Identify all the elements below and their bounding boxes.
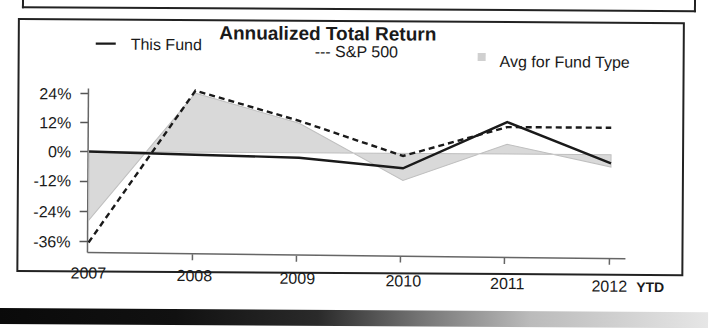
x-tick-label: 2012: [591, 278, 627, 295]
y-axis: 24% 12% 0% -12% -24% -36%: [33, 85, 71, 250]
x-tick-label: 2009: [279, 270, 315, 287]
annualized-return-chart: Annualized Total Return This Fund --- S&…: [0, 0, 710, 328]
legend-area-swatch-icon: [478, 53, 486, 61]
x-tick-label: 2010: [385, 272, 421, 289]
scanned-page: Annualized Total Return This Fund --- S&…: [0, 0, 710, 328]
x-axis-labels: 2007 2008 2009 2010 2011 2012: [70, 264, 627, 294]
legend-this-fund: This Fund: [131, 36, 202, 53]
plot-area: [89, 90, 612, 246]
chart-title: Annualized Total Return: [219, 22, 436, 44]
ytd-label: YTD: [636, 279, 664, 295]
y-tick-label: 0%: [48, 143, 71, 160]
scan-edge-shadow: [0, 308, 708, 328]
y-tick-label: -12%: [33, 172, 70, 189]
sp500-line: [89, 90, 612, 246]
y-axis-line: [87, 89, 88, 253]
y-tick-label: -36%: [33, 233, 70, 250]
legend-sp500: --- S&P 500: [315, 43, 399, 61]
avg-fund-type-area: [89, 93, 612, 224]
x-axis-line: [87, 253, 625, 259]
x-tick-label: 2011: [490, 275, 525, 292]
legend-avg-fund-type: Avg for Fund Type: [500, 53, 630, 71]
y-tick-label: 24%: [39, 85, 71, 102]
y-tick-label: 12%: [39, 114, 71, 131]
y-tick-label: -24%: [33, 203, 70, 220]
x-tick-label: 2007: [70, 264, 106, 281]
x-tick-label: 2008: [176, 267, 212, 284]
